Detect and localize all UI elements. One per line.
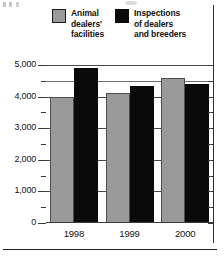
x-axis-tick-label: 2000 bbox=[165, 228, 205, 239]
y-axis-tick-right bbox=[208, 97, 213, 98]
y-axis-tick bbox=[38, 160, 46, 161]
chart-legend: Animal dealers' facilities Inspections o… bbox=[52, 8, 212, 40]
y-axis-tick bbox=[38, 65, 46, 66]
y-axis-tick-right bbox=[208, 128, 213, 129]
y-axis-tick-minor-right bbox=[208, 112, 213, 113]
x-axis-line bbox=[46, 222, 213, 223]
bar-2000-series-1 bbox=[161, 78, 185, 223]
y-axis-tick-minor-right bbox=[208, 207, 213, 208]
y-axis-labels: 01,0002,0003,0004,0005,000 bbox=[0, 0, 36, 258]
y-axis-tick-label: 2,000 bbox=[0, 155, 36, 164]
y-axis-tick bbox=[38, 223, 46, 224]
figure-border-right bbox=[213, 5, 214, 243]
bar-1998-series-2 bbox=[74, 68, 98, 223]
y-axis-tick-right bbox=[208, 191, 213, 192]
bars-layer bbox=[46, 65, 213, 223]
y-axis-tick-minor bbox=[41, 112, 46, 113]
legend-label-inspections-of-dealers-and-breeders: Inspections of dealers and breeders bbox=[134, 8, 186, 40]
y-axis-tick-minor bbox=[41, 207, 46, 208]
gray-swatch-icon bbox=[52, 9, 66, 23]
chart-figure: Animal dealers' facilities Inspections o… bbox=[0, 0, 224, 258]
x-axis-tick-label: 1999 bbox=[110, 228, 150, 239]
x-axis-tick-label: 1998 bbox=[54, 228, 94, 239]
x-axis-labels: 199819992000 bbox=[46, 228, 213, 242]
y-axis-tick-minor bbox=[41, 144, 46, 145]
legend-label-animal-dealers-facilities: Animal dealers' facilities bbox=[71, 8, 104, 40]
bar-1999-series-1 bbox=[106, 93, 130, 223]
y-axis-tick-minor-right bbox=[208, 176, 213, 177]
y-axis-tick-minor bbox=[41, 176, 46, 177]
y-axis-tick-minor-right bbox=[208, 81, 213, 82]
bar-2000-series-2 bbox=[185, 84, 209, 223]
figure-rule-bottom bbox=[3, 249, 217, 250]
legend-entry-inspections-of-dealers-and-breeders: Inspections of dealers and breeders bbox=[115, 8, 186, 40]
y-axis-tick-label: 1,000 bbox=[0, 186, 36, 195]
y-axis-tick-minor bbox=[41, 81, 46, 82]
legend-entry-animal-dealers-facilities: Animal dealers' facilities bbox=[52, 8, 104, 40]
y-axis-tick bbox=[38, 191, 46, 192]
y-axis-tick-right bbox=[208, 160, 213, 161]
y-axis-tick bbox=[38, 97, 46, 98]
scan-artifact-secondary bbox=[125, 1, 137, 5]
y-axis-tick bbox=[38, 128, 46, 129]
bar-1998-series-1 bbox=[50, 97, 74, 223]
y-axis-tick-minor-right bbox=[208, 144, 213, 145]
y-axis-tick-label: 5,000 bbox=[0, 60, 36, 69]
y-axis-tick-label: 3,000 bbox=[0, 123, 36, 132]
y-axis-tick-right bbox=[208, 223, 213, 224]
black-swatch-icon bbox=[115, 9, 129, 23]
y-axis-tick-right bbox=[208, 65, 213, 66]
y-axis-tick-label: 4,000 bbox=[0, 92, 36, 101]
bar-1999-series-2 bbox=[130, 86, 154, 223]
y-axis-tick-label: 0 bbox=[0, 218, 36, 227]
